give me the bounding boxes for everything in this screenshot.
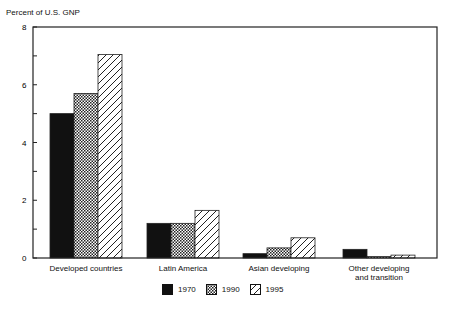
bar-1990 <box>74 93 98 258</box>
bar-1990 <box>267 248 291 258</box>
y-tick-label: 2 <box>22 196 27 205</box>
bar-1995 <box>195 210 219 258</box>
legend-item-1970: 1970 <box>162 284 196 295</box>
category-label: Developed countries <box>36 264 136 273</box>
bar-1995 <box>291 238 315 258</box>
legend-item-1990: 1990 <box>206 284 240 295</box>
category-label: Other developingand transition <box>329 264 429 282</box>
bars-group <box>50 54 415 258</box>
y-tick-label: 4 <box>22 139 27 148</box>
bar-1995 <box>98 54 122 258</box>
y-tick-label: 0 <box>22 254 27 263</box>
bar-1970 <box>50 114 74 258</box>
bar-1970 <box>147 223 171 258</box>
y-axis-ticks: 02468 <box>22 23 37 263</box>
legend: 1970 1990 1995 <box>162 284 287 295</box>
bar-1970 <box>343 249 367 258</box>
category-label: Asian developing <box>229 264 329 273</box>
category-label: Latin America <box>133 264 233 273</box>
bar-1970 <box>243 254 267 258</box>
y-tick-label: 8 <box>22 23 27 32</box>
y-tick-label: 6 <box>22 81 27 90</box>
bar-1990 <box>171 223 195 258</box>
legend-item-1995: 1995 <box>250 284 284 295</box>
